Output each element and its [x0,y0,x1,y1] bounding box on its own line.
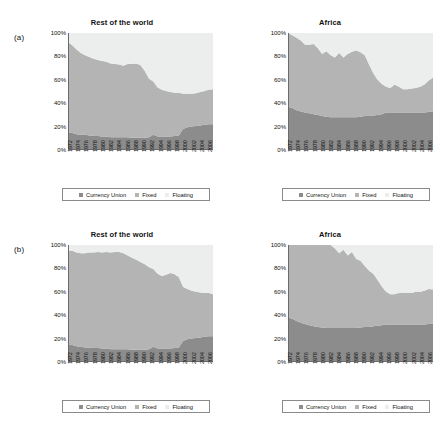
x-tick-label: 1980 [100,140,106,152]
x-tick-label: 1978 [92,352,98,364]
x-tick-label: 1988 [353,352,359,364]
legend-swatch-icon [135,193,139,197]
plot-wrap [288,33,433,150]
x-tick-label: 1998 [174,352,180,364]
x-tick-label: 1980 [100,352,106,364]
y-axis-line [288,245,289,362]
chart-title: Africa [220,230,440,239]
x-tick-label: 1988 [133,140,139,152]
y-tick-label: 0% [277,147,286,153]
x-tick-label: 2004 [199,352,205,364]
x-axis-labels: 1972197419761978198019821984198619881990… [68,364,213,398]
chart-legend: Currency UnionFixedFloating [282,400,430,413]
panel-a-africa: Africa 100%80%60%40%20%0% 19721974197619… [220,0,440,212]
y-tick-label: 60% [274,289,286,295]
legend-item[interactable]: Floating [165,404,193,410]
x-tick-label: 1990 [141,140,147,152]
x-tick-label: 1994 [158,140,164,152]
y-tick-label: 20% [274,336,286,342]
x-tick-label: 2002 [411,352,417,364]
plot-area [288,245,433,362]
x-tick-label: 1990 [361,352,367,364]
x-tick-label: 2006 [427,140,433,152]
x-tick-label: 1998 [174,140,180,152]
x-tick-label: 1984 [336,352,342,364]
x-tick-label: 1996 [166,352,172,364]
x-tick-label: 1996 [166,140,172,152]
legend-label: Floating [392,404,413,410]
x-tick-label: 2006 [207,352,213,364]
x-tick-label: 1998 [394,352,400,364]
legend-label: Currency Union [306,404,346,410]
y-tick-label: 80% [54,53,66,59]
legend-item[interactable]: Fixed [355,192,376,198]
legend-item[interactable]: Currency Union [299,192,346,198]
y-tick-label: 40% [274,100,286,106]
y-axis-line [288,33,289,150]
y-tick-label: 80% [274,53,286,59]
legend-label: Floating [392,192,413,198]
x-tick-label: 1990 [141,352,147,364]
y-tick-label: 0% [57,147,66,153]
legend-item[interactable]: Currency Union [79,404,126,410]
legend-label: Fixed [142,404,156,410]
legend-item[interactable]: Fixed [135,192,156,198]
legend-item[interactable]: Floating [385,192,413,198]
legend-item[interactable]: Currency Union [79,192,126,198]
x-tick-label: 2000 [402,352,408,364]
x-axis-labels: 1972197419761978198019821984198619881990… [288,364,433,398]
x-tick-label: 1980 [320,352,326,364]
y-tick-label: 60% [274,77,286,83]
panel-row-top: (a) Rest of the world 100%80%60%40%20%0%… [0,0,440,212]
y-axis-labels: 100%80%60%40%20%0% [254,245,286,362]
legend-item[interactable]: Currency Union [299,404,346,410]
panel-a-rest-of-the-world: (a) Rest of the world 100%80%60%40%20%0%… [0,0,220,212]
x-tick-label: 1978 [312,352,318,364]
x-tick-label: 2004 [419,352,425,364]
x-tick-label: 2004 [419,140,425,152]
legend-swatch-icon [355,405,359,409]
legend-swatch-icon [299,193,303,197]
y-tick-label: 40% [54,312,66,318]
legend-item[interactable]: Fixed [355,404,376,410]
plot-area [68,33,213,150]
legend-item[interactable]: Floating [385,404,413,410]
y-tick-label: 20% [54,124,66,130]
y-axis-line [68,245,69,362]
chart-legend: Currency UnionFixedFloating [62,188,210,201]
x-tick-label: 1972 [67,140,73,152]
legend-item[interactable]: Floating [165,192,193,198]
x-tick-label: 1994 [378,140,384,152]
y-tick-label: 60% [54,289,66,295]
chart-legend: Currency UnionFixedFloating [282,188,430,201]
x-tick-label: 2000 [182,352,188,364]
legend-label: Fixed [362,404,376,410]
x-tick-label: 1972 [67,352,73,364]
y-tick-label: 100% [51,30,66,36]
x-tick-label: 1982 [328,352,334,364]
y-tick-label: 80% [274,265,286,271]
panel-letter-a: (a) [14,33,24,42]
x-tick-label: 1996 [386,352,392,364]
x-tick-label: 1980 [320,140,326,152]
stacked-area-plot [288,33,433,150]
x-tick-label: 1976 [83,140,89,152]
legend-item[interactable]: Fixed [135,404,156,410]
x-tick-label: 1974 [75,352,81,364]
x-tick-label: 1974 [75,140,81,152]
x-tick-label: 1972 [287,352,293,364]
plot-area [68,245,213,362]
legend-label: Currency Union [86,404,126,410]
y-tick-label: 100% [271,30,286,36]
legend-label: Floating [172,192,193,198]
x-tick-label: 1998 [394,140,400,152]
panel-letter-b: (b) [14,245,24,254]
legend-swatch-icon [135,405,139,409]
x-tick-label: 1986 [345,352,351,364]
x-tick-label: 2000 [182,140,188,152]
x-tick-label: 1982 [108,352,114,364]
chart-title: Africa [220,18,440,27]
x-tick-label: 1982 [328,140,334,152]
x-tick-label: 2006 [427,352,433,364]
plot-wrap [68,245,213,362]
